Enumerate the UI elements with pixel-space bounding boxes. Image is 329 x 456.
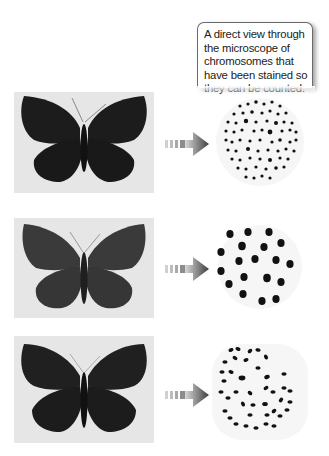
- arrow-right-icon: [163, 131, 213, 157]
- callout-line: the microscope of: [204, 42, 308, 56]
- arrow-2: [163, 256, 213, 282]
- callout-fade: [197, 86, 315, 94]
- arrow-1: [163, 131, 213, 157]
- chromosome-view-1: [210, 96, 310, 188]
- arrow-right-icon: [163, 256, 213, 282]
- butterfly-icon: [14, 336, 154, 443]
- chromosome-spread-icon: [210, 96, 310, 188]
- callout-line: have been stained so: [204, 69, 308, 83]
- chromosome-spread-icon: [210, 222, 310, 312]
- arrow-3: [163, 382, 213, 408]
- butterfly-photo-2: [14, 218, 154, 318]
- chromosome-spread-icon: [210, 342, 310, 442]
- chromosome-view-3: [210, 342, 310, 442]
- butterfly-icon: [14, 92, 154, 193]
- butterfly-icon: [14, 218, 154, 318]
- callout-line: A direct view through: [204, 28, 308, 42]
- chromosome-view-2: [210, 222, 310, 312]
- callout-box: A direct view through the microscope of …: [197, 22, 313, 88]
- butterfly-photo-1: [14, 92, 154, 193]
- butterfly-photo-3: [14, 336, 154, 443]
- callout-line: chromosomes that: [204, 55, 308, 69]
- arrow-right-icon: [163, 382, 213, 408]
